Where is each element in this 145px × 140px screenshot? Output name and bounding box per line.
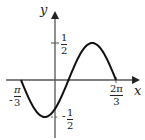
x-tick-label-neg-pi-3: π 3 xyxy=(14,85,21,108)
x-axis-label: x xyxy=(134,84,141,97)
y-tick-label-neg-half: 1 2 xyxy=(67,108,73,131)
x-tick-neg-sign: - xyxy=(9,95,13,106)
sinusoid-graph: y x 1 2 - 1 2 - π 3 2π 3 xyxy=(0,0,145,140)
y-tick-neg-sign: - xyxy=(62,111,66,122)
y-axis-arrow-icon xyxy=(51,11,59,19)
x-tick-label-2pi-3: 2π 3 xyxy=(110,84,123,107)
y-tick-label-half: 1 2 xyxy=(61,33,67,56)
y-axis-label: y xyxy=(40,3,47,16)
